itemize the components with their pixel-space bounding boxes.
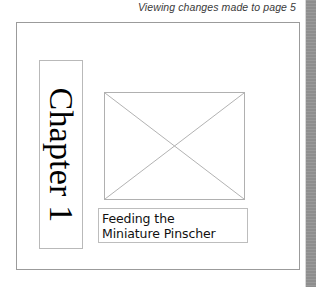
- caption-line-2: Miniature Pinscher: [102, 226, 247, 241]
- status-message: Viewing changes made to page 5: [138, 1, 296, 13]
- vertical-scrollbar[interactable]: [305, 0, 316, 287]
- page-preview-viewer: Viewing changes made to page 5 Chapter 1…: [0, 0, 316, 287]
- caption-text-box[interactable]: Feeding the Miniature Pinscher: [98, 208, 248, 243]
- caption-line-1: Feeding the: [102, 211, 247, 226]
- image-placeholder-box[interactable]: [104, 92, 245, 200]
- chapter-title-box[interactable]: Chapter 1: [39, 60, 83, 249]
- document-page-frame[interactable]: Chapter 1 Feeding the Miniature Pinscher: [16, 22, 300, 270]
- chapter-title-text: Chapter 1: [44, 87, 78, 222]
- vertical-scrollbar-thumb[interactable]: [307, 0, 316, 287]
- status-bar: Viewing changes made to page 5: [0, 0, 304, 17]
- crossed-rectangle-image-placeholder-icon: [105, 93, 244, 199]
